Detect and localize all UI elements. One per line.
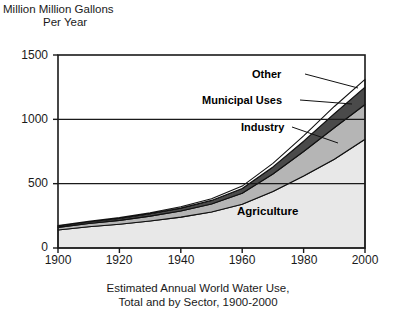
callout-other: Other [252,68,281,80]
plot-area [0,0,396,324]
callout-leader-line [305,74,358,88]
callout-agriculture: Agriculture [237,205,298,217]
callout-municipal-uses: Municipal Uses [202,94,282,106]
chart-figure: Million Million Gallons Per Year 1500 10… [0,0,396,324]
caption-line1: Estimated Annual World Water Use, [0,281,396,295]
callout-industry: Industry [241,121,284,133]
caption-line2: Total and by Sector, 1900-2000 [0,295,396,309]
